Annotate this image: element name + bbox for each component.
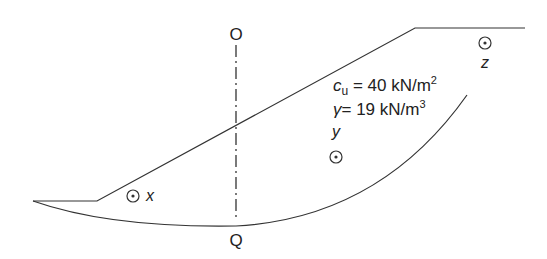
gamma-value: = 19 kN/m — [342, 100, 420, 119]
point-y-marker — [330, 151, 342, 163]
label-q: Q — [229, 231, 242, 250]
ground-surface — [33, 28, 525, 201]
point-x-marker — [127, 190, 139, 202]
point-z-marker — [479, 37, 491, 49]
cu-subscript: u — [342, 84, 349, 98]
slope-diagram: O Q x y z cu = 40 kN/m2 γ= 19 kN/m3 — [0, 0, 547, 259]
gamma-annotation: γ= 19 kN/m3 — [333, 98, 426, 119]
gamma-exponent: 3 — [419, 98, 425, 110]
label-x: x — [145, 187, 155, 204]
label-o: O — [229, 25, 242, 44]
label-z: z — [480, 54, 489, 71]
cu-exponent: 2 — [431, 74, 437, 86]
cu-annotation: cu = 40 kN/m2 — [333, 74, 437, 98]
cu-value: = 40 kN/m — [348, 76, 431, 95]
label-y: y — [331, 123, 341, 140]
